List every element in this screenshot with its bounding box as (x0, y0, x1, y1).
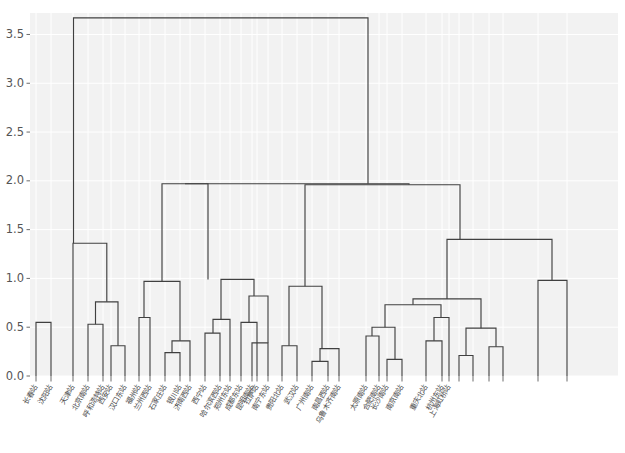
x-tick-label-group: 沈阳站 (36, 383, 55, 407)
y-tick-marks (27, 34, 31, 376)
y-tick-label: 1.5 (6, 222, 24, 236)
y-tick-labels: 0.00.51.01.52.02.53.03.5 (6, 27, 24, 383)
x-tick-marks (36, 376, 567, 382)
y-tick-label: 1.0 (6, 271, 24, 285)
y-tick-label: 2.5 (6, 125, 24, 139)
y-tick-label: 0.5 (6, 320, 24, 334)
station-label: 沈阳站 (36, 383, 55, 407)
y-tick-label: 3.0 (6, 76, 24, 90)
dendrogram-canvas: 0.00.51.01.52.02.53.03.5 长春站沈阳站天津站北京南站呼和… (0, 0, 625, 453)
y-tick-label: 3.5 (6, 27, 24, 41)
y-tick-label: 0.0 (6, 369, 24, 383)
x-tick-labels: 长春站沈阳站天津站北京南站呼和浩特站西安站汉口东站福州站兰州西站石家庄站银川站济… (21, 383, 453, 425)
dendrogram-figure: 0.00.51.01.52.02.53.03.5 长春站沈阳站天津站北京南站呼和… (0, 0, 625, 453)
y-tick-label: 2.0 (6, 173, 24, 187)
